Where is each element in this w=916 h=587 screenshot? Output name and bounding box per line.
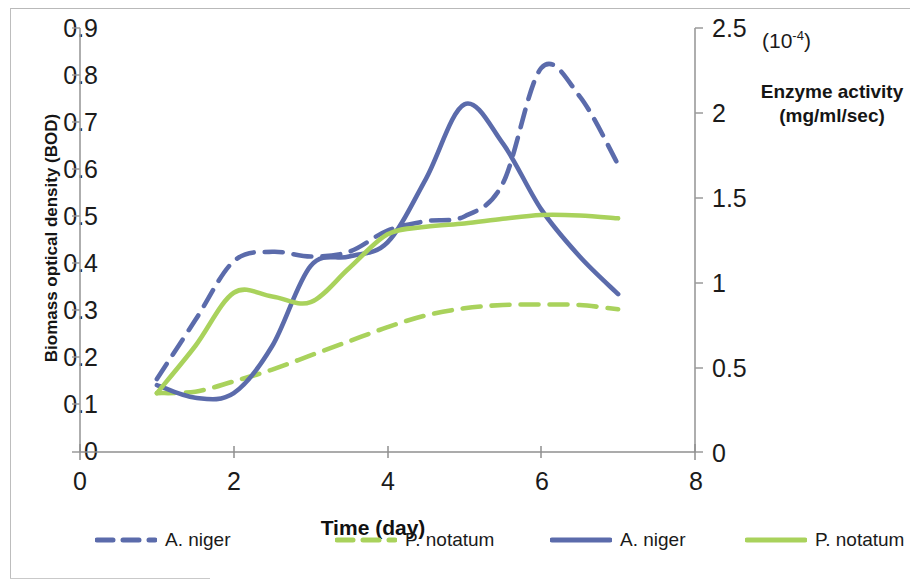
legend-label-1: P. notatum bbox=[405, 529, 494, 551]
chart-page: Biomass optical density (BOD) (10-4) Enz… bbox=[0, 0, 916, 587]
left-axis-ticks bbox=[72, 28, 80, 452]
legend-label-0: A. niger bbox=[165, 529, 230, 551]
legend-item-3[interactable]: P. notatum bbox=[745, 525, 904, 555]
series-path-1 bbox=[157, 304, 618, 393]
legend-swatch-1 bbox=[335, 525, 397, 555]
data-series-layer bbox=[157, 64, 618, 399]
legend-item-0[interactable]: A. niger bbox=[95, 525, 230, 555]
legend-swatch-0 bbox=[95, 525, 157, 555]
legend-swatch-2 bbox=[550, 525, 612, 555]
chart-legend: A. niger P. notatum A. niger P. notatum bbox=[95, 525, 895, 561]
right-axis-ticks bbox=[695, 28, 703, 452]
legend-swatch-3 bbox=[745, 525, 807, 555]
chart-plot-area bbox=[0, 0, 916, 587]
legend-item-1[interactable]: P. notatum bbox=[335, 525, 494, 555]
series-path-2 bbox=[157, 104, 618, 400]
legend-item-2[interactable]: A. niger bbox=[550, 525, 685, 555]
legend-label-2: A. niger bbox=[620, 529, 685, 551]
legend-label-3: P. notatum bbox=[815, 529, 904, 551]
